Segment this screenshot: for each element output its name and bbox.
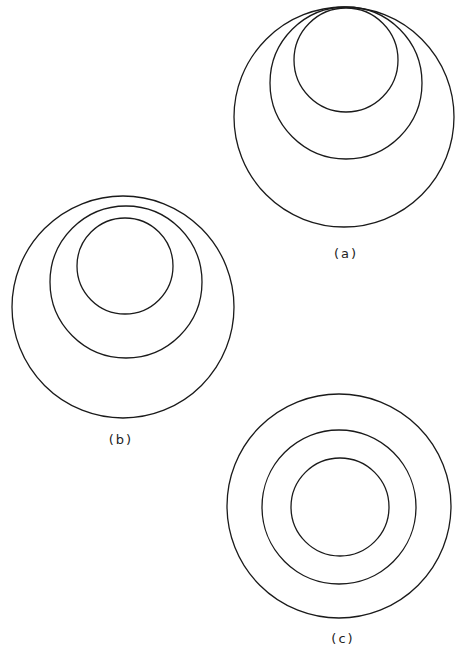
- figure-c-inner-circle: [291, 458, 389, 556]
- figure-b-middle-circle: [50, 206, 202, 358]
- figure-a-outer-circle: [234, 7, 454, 227]
- figure-a: (a): [234, 7, 454, 261]
- figure-c-middle-circle: [262, 430, 416, 584]
- figure-b-label: (b): [109, 432, 133, 447]
- figure-b-inner-circle: [77, 218, 173, 314]
- figure-b: (b): [12, 196, 234, 447]
- figure-a-inner-circle: [294, 8, 398, 112]
- figure-a-label: (a): [334, 246, 358, 261]
- figure-c: (c): [227, 394, 451, 646]
- figure-b-outer-circle: [12, 196, 234, 418]
- figure-a-middle-circle: [270, 7, 422, 159]
- diagram-canvas: (a) (b) (c): [0, 0, 462, 653]
- figure-c-label: (c): [331, 631, 354, 646]
